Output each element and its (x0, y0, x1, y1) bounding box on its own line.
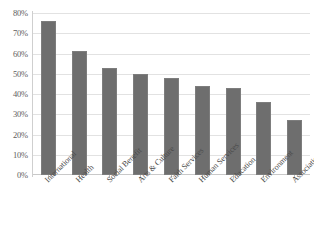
y-tick-label-40: 40% (13, 89, 28, 99)
bar-environment[interactable] (256, 102, 271, 175)
bar-slot (95, 13, 126, 175)
y-axis: 80% 70% 60% 50% 40% 30% 20% 10% 0% (0, 0, 31, 185)
bar-education[interactable] (226, 88, 241, 175)
y-tick-label-50: 50% (13, 69, 28, 79)
y-tick-label-30: 30% (13, 109, 28, 119)
x-axis-labels: International Health Social Benefit Arts… (33, 178, 310, 242)
y-tick-label-0: 0% (17, 170, 28, 180)
bar-slot (279, 13, 310, 175)
y-tick-label-20: 20% (13, 130, 28, 140)
bar-slot (248, 13, 279, 175)
bar-human-services[interactable] (195, 86, 210, 175)
bar-slot (33, 13, 64, 175)
y-tick-label-70: 70% (13, 28, 28, 38)
y-tick-label-10: 10% (13, 150, 28, 160)
bar-international[interactable] (41, 21, 56, 175)
y-tick-label-60: 60% (13, 49, 28, 59)
bar-social-benefit[interactable] (102, 68, 117, 175)
bar-chart: 80% 70% 60% 50% 40% 30% 20% 10% 0% (0, 0, 314, 242)
y-tick-label-80: 80% (13, 8, 28, 18)
